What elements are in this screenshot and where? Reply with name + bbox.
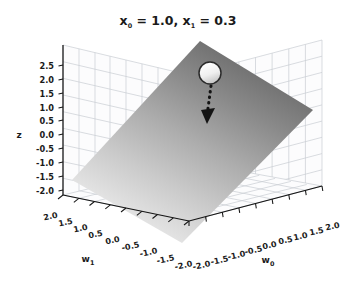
title-x1-equals: = 0.3 [195, 13, 236, 28]
z-tick-label: -0.5 [36, 144, 54, 154]
w1-axis-label: w1 [82, 254, 95, 267]
z-axis-label: z [16, 130, 21, 140]
chart-title: x0 = 1.0, x1 = 0.3 [120, 13, 237, 30]
w0-tick-label: 1.0 [292, 230, 309, 243]
w0-tick-label: -0.5 [244, 243, 264, 257]
w0-axis-label-subscript: 0 [270, 260, 275, 268]
w0-axis-label-text: w [262, 255, 270, 265]
w0-tick-label: -2.0 [192, 258, 212, 272]
z-axis: 2.5 2.0 1.5 1.0 0.5 0.0 -0.5 -1.0 -1.5 -… [16, 45, 63, 196]
w0-tick-label: 2.0 [324, 220, 341, 233]
w1-tick-label: 0.5 [87, 228, 104, 241]
title-x1-symbol: x [183, 13, 191, 28]
z-tick-label: 1.0 [39, 103, 54, 113]
title-x0-equals: = 1.0, [132, 13, 182, 28]
z-tick-label: 2.5 [39, 61, 54, 71]
figure-canvas: x0 = 1.0, x1 = 0.3 [0, 0, 356, 298]
w1-axis-label-subscript: 1 [90, 259, 94, 267]
w1-tick-label: 1.5 [57, 216, 74, 229]
svg-text:x0 = 1.0, x1 = 0.3: x0 = 1.0, x1 = 0.3 [120, 13, 237, 30]
z-tick-label: 0.5 [39, 116, 54, 126]
z-tick-label: 0.0 [39, 130, 54, 140]
z-tick-label: 1.5 [39, 89, 54, 99]
z-tick-label: -1.0 [36, 158, 54, 168]
ball-marker [199, 62, 221, 84]
w1-tick-label: 1.0 [72, 222, 89, 235]
w0-tick-label: 0.0 [261, 239, 278, 252]
w1-tick-label: -2.0 [174, 258, 194, 272]
w1-tick-label: -0.5 [121, 239, 141, 253]
w0-tick-label: 1.5 [308, 225, 325, 238]
z-tick-label: -1.5 [36, 172, 54, 182]
w0-tick-label: 0.5 [277, 234, 294, 247]
w0-axis-label: w0 [262, 255, 275, 268]
w1-tick-label: 2.0 [42, 210, 59, 223]
title-x0-symbol: x [120, 13, 128, 28]
w1-tick-label: -1.5 [156, 252, 176, 266]
w1-tick-label: 0.0 [104, 234, 121, 247]
z-tick-label: -2.0 [36, 186, 54, 196]
z-tick-label: 2.0 [39, 75, 54, 85]
w1-axis-label-text: w [82, 254, 90, 264]
surface-plot-3d: x0 = 1.0, x1 = 0.3 [0, 0, 356, 298]
